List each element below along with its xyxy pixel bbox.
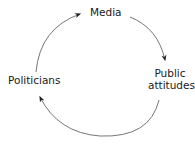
- arrow-public-attitudes-to-politicians: [40, 97, 159, 136]
- node-media: Media: [90, 6, 122, 18]
- node-politicians: Politicians: [8, 74, 61, 86]
- node-public-attitudes-line1: Public: [148, 67, 192, 79]
- arrow-media-to-public-attitudes: [130, 17, 165, 60]
- node-media-label: Media: [90, 6, 122, 18]
- arrow-politicians-to-media: [36, 14, 80, 72]
- node-politicians-label: Politicians: [8, 74, 61, 86]
- node-public-attitudes: Public attitudes: [148, 67, 192, 91]
- cycle-diagram: Media Public attitudes Politicians: [0, 0, 195, 145]
- node-public-attitudes-line2: attitudes: [148, 79, 192, 91]
